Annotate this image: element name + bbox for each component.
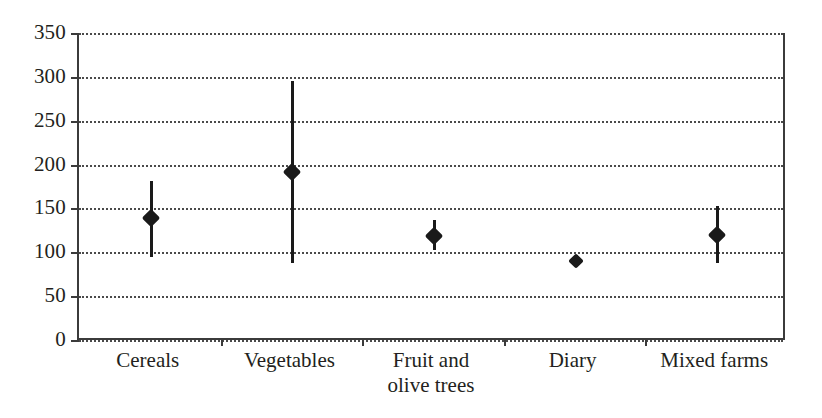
data-point-marker <box>708 226 726 244</box>
y-axis-tick <box>71 340 79 342</box>
x-axis-tick <box>504 338 506 346</box>
data-point-marker <box>425 226 443 244</box>
y-axis-tick-label: 50 <box>0 285 66 306</box>
x-axis-tick <box>221 338 223 346</box>
y-axis-tick <box>71 165 79 167</box>
x-axis-category-label: Cereals <box>77 348 219 373</box>
gridline <box>79 296 783 298</box>
y-axis-tick-label: 0 <box>0 329 66 350</box>
data-point-marker <box>142 209 160 227</box>
x-axis-category-label: Fruit and olive trees <box>360 348 502 398</box>
gridline <box>79 165 783 167</box>
y-axis-tick-label: 200 <box>0 154 66 175</box>
gridline <box>79 77 783 79</box>
plot-area <box>77 33 785 340</box>
x-axis-category-label: Diary <box>502 348 644 373</box>
y-axis-tick <box>71 252 79 254</box>
y-axis-tick-label: 100 <box>0 241 66 262</box>
gridline <box>79 340 783 342</box>
data-point-marker <box>568 253 584 269</box>
y-axis-tick-label: 300 <box>0 66 66 87</box>
y-axis-tick <box>71 121 79 123</box>
gridline <box>79 252 783 254</box>
gridline <box>79 33 783 35</box>
gridline <box>79 208 783 210</box>
gridline <box>79 121 783 123</box>
y-axis-tick <box>71 296 79 298</box>
x-axis-category-label: Mixed farms <box>643 348 785 373</box>
x-axis-category-label: Vegetables <box>219 348 361 373</box>
x-axis-tick-labels: CerealsVegetablesFruit and olive treesDi… <box>77 348 785 408</box>
chart-figure: 050100150200250300350 CerealsVegetablesF… <box>0 0 822 418</box>
y-axis-tick <box>71 33 79 35</box>
x-axis-tick <box>645 338 647 346</box>
x-axis-tick <box>362 338 364 346</box>
y-axis-tick <box>71 208 79 210</box>
y-axis-tick-labels: 050100150200250300350 <box>0 33 66 340</box>
y-axis-tick-label: 150 <box>0 197 66 218</box>
y-axis-tick-label: 350 <box>0 22 66 43</box>
y-axis-tick <box>71 77 79 79</box>
y-axis-tick-label: 250 <box>0 110 66 131</box>
